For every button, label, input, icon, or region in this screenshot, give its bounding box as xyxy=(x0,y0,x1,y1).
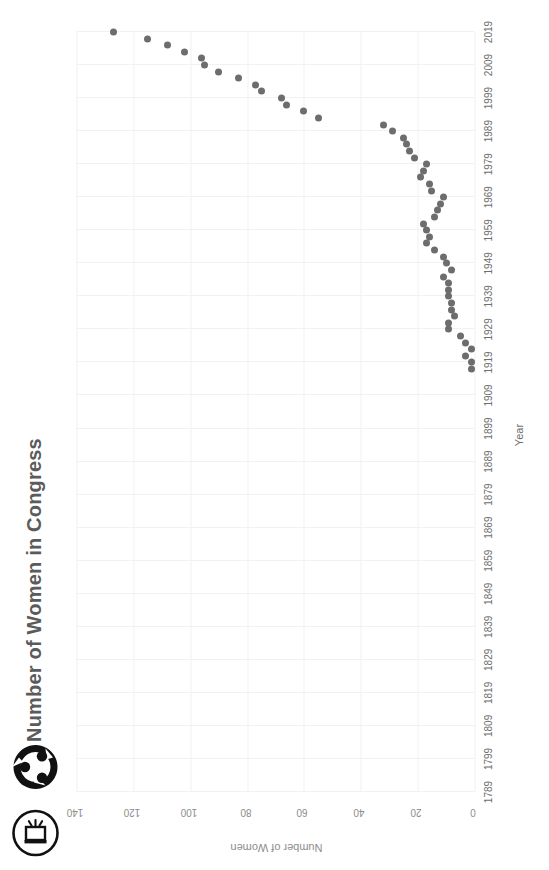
data-point[interactable] xyxy=(144,35,151,42)
x-axis-tick-label: 1809 xyxy=(482,715,493,737)
x-axis-tick-label: 1959 xyxy=(482,219,493,241)
x-axis-tick-label: 1929 xyxy=(482,318,493,340)
gridline-vertical xyxy=(76,31,474,32)
data-point[interactable] xyxy=(431,247,438,254)
gridline-vertical xyxy=(76,626,474,627)
data-point[interactable] xyxy=(380,121,387,128)
data-point[interactable] xyxy=(402,141,409,148)
gridline-vertical xyxy=(76,725,474,726)
chart-stage: Number of Women in Congress 020406080100… xyxy=(0,0,549,870)
data-point[interactable] xyxy=(425,181,432,188)
data-point[interactable] xyxy=(439,194,446,201)
gridline-horizontal xyxy=(190,32,191,792)
x-axis-tick-label: 1789 xyxy=(482,781,493,803)
data-point[interactable] xyxy=(434,207,441,214)
x-axis-tick-label: 2019 xyxy=(482,21,493,43)
y-axis-tick-label: 100 xyxy=(183,798,194,826)
data-point[interactable] xyxy=(215,68,222,75)
data-point[interactable] xyxy=(436,200,443,207)
x-axis-tick-label: 1839 xyxy=(482,616,493,638)
gridline-horizontal xyxy=(474,32,475,792)
data-point[interactable] xyxy=(456,333,463,340)
x-axis-tick-label: 1849 xyxy=(482,583,493,605)
gridline-vertical xyxy=(76,394,474,395)
data-point[interactable] xyxy=(445,319,452,326)
data-point[interactable] xyxy=(422,240,429,247)
y-axis-tick-label: 140 xyxy=(69,798,80,826)
data-point[interactable] xyxy=(109,29,116,36)
data-point[interactable] xyxy=(462,339,469,346)
x-axis-tick-label: 1869 xyxy=(482,517,493,539)
y-axis-tick-label: 60 xyxy=(296,798,307,826)
gridline-vertical xyxy=(76,428,474,429)
data-point[interactable] xyxy=(405,147,412,154)
data-point[interactable] xyxy=(468,366,475,373)
y-axis-tick-label: 120 xyxy=(126,798,137,826)
data-point[interactable] xyxy=(388,128,395,135)
gridline-vertical xyxy=(76,64,474,65)
data-point[interactable] xyxy=(448,299,455,306)
data-point[interactable] xyxy=(283,101,290,108)
plot-area: 020406080100120140 178917991809181918291… xyxy=(0,0,549,870)
data-point[interactable] xyxy=(445,280,452,287)
data-point[interactable] xyxy=(451,313,458,320)
data-point[interactable] xyxy=(439,273,446,280)
data-point[interactable] xyxy=(411,154,418,161)
data-point[interactable] xyxy=(468,346,475,353)
y-axis-tick-label: 80 xyxy=(240,798,251,826)
data-point[interactable] xyxy=(163,42,170,49)
data-point[interactable] xyxy=(431,214,438,221)
data-point[interactable] xyxy=(300,108,307,115)
data-point[interactable] xyxy=(399,134,406,141)
x-axis-tick-label: 1999 xyxy=(482,87,493,109)
data-point[interactable] xyxy=(422,161,429,168)
data-point[interactable] xyxy=(419,220,426,227)
data-point[interactable] xyxy=(445,326,452,333)
data-point[interactable] xyxy=(200,62,207,69)
gridline-horizontal xyxy=(417,32,418,792)
gridline-vertical xyxy=(76,196,474,197)
data-point[interactable] xyxy=(442,260,449,267)
gridline-vertical xyxy=(76,163,474,164)
data-point[interactable] xyxy=(416,174,423,181)
data-point[interactable] xyxy=(277,95,284,102)
x-axis-title: Year xyxy=(512,0,524,870)
x-axis-tick-label: 1859 xyxy=(482,550,493,572)
gridline-vertical xyxy=(76,494,474,495)
gridline-horizontal xyxy=(303,32,304,792)
data-point[interactable] xyxy=(257,88,264,95)
data-point[interactable] xyxy=(448,306,455,313)
data-point[interactable] xyxy=(445,286,452,293)
data-point[interactable] xyxy=(468,359,475,366)
gridline-vertical xyxy=(76,593,474,594)
gridline-vertical xyxy=(76,758,474,759)
x-axis-tick-label: 1919 xyxy=(482,351,493,373)
gridline-vertical xyxy=(76,560,474,561)
data-point[interactable] xyxy=(198,55,205,62)
data-point[interactable] xyxy=(428,187,435,194)
data-point[interactable] xyxy=(439,253,446,260)
gridline-vertical xyxy=(76,328,474,329)
x-axis-tick-label: 1969 xyxy=(482,186,493,208)
data-point[interactable] xyxy=(462,352,469,359)
y-axis-tick-label: 0 xyxy=(467,798,478,826)
x-axis-tick-label: 1939 xyxy=(482,285,493,307)
data-point[interactable] xyxy=(445,293,452,300)
data-point[interactable] xyxy=(181,48,188,55)
gridline-vertical xyxy=(76,295,474,296)
data-point[interactable] xyxy=(422,227,429,234)
data-point[interactable] xyxy=(252,81,259,88)
data-point[interactable] xyxy=(419,167,426,174)
y-axis-title: Number of Women xyxy=(146,842,406,854)
gridline-vertical xyxy=(76,361,474,362)
data-point[interactable] xyxy=(314,114,321,121)
x-axis-tick-label: 1899 xyxy=(482,417,493,439)
gridline-vertical xyxy=(76,527,474,528)
data-point[interactable] xyxy=(425,233,432,240)
x-axis-tick-label: 1889 xyxy=(482,450,493,472)
data-point[interactable] xyxy=(235,75,242,82)
data-point[interactable] xyxy=(448,266,455,273)
x-axis-tick-label: 2009 xyxy=(482,54,493,76)
gridline-horizontal xyxy=(360,32,361,792)
y-axis-tick-label: 20 xyxy=(410,798,421,826)
